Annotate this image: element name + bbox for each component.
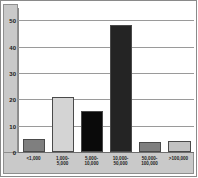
bar-slot [48,8,77,152]
y-axis-label-strip [3,4,18,154]
x-tick-label: 10,000-50,000 [106,155,135,166]
bar [168,141,190,152]
bar-slot [19,8,48,152]
bar-slot [107,8,136,152]
bar [81,111,103,152]
x-tick-label: 5,000-10,000 [77,155,106,166]
x-tick-label: <1,000 [19,155,48,161]
bar-chart: 01020304050 <1,0001,000-5,0005,000-10,00… [0,0,198,178]
y-tick-label: 30 [0,71,16,77]
plot-area: 01020304050 [18,8,194,153]
y-tick-label: 10 [0,124,16,130]
bar-slot [136,8,165,152]
x-axis-line [18,152,194,153]
y-tick-label: 0 [0,150,16,156]
bar-slot [165,8,194,152]
bar-series [19,8,194,152]
bar [139,142,161,152]
x-tick-label: 50,000-100,000 [135,155,164,166]
x-tick-label: 1,000-5,000 [48,155,77,166]
y-tick-label: 40 [0,45,16,51]
bar [23,139,45,152]
bar-slot [77,8,106,152]
y-tick-label: 20 [0,97,16,103]
bar [52,97,74,152]
y-tick-label: 50 [0,18,16,24]
x-tick-label: >100,000 [164,155,193,161]
bar [110,25,132,152]
x-tick-labels: <1,0001,000-5,0005,000-10,00010,000-50,0… [19,155,193,173]
